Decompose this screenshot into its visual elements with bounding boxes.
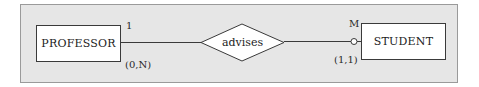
professor-entity-label: PROFESSOR — [41, 37, 115, 50]
optional-participation-circle-icon — [351, 39, 357, 45]
professor-entity: PROFESSOR — [36, 25, 121, 62]
student-participation: (1,1) — [334, 55, 358, 65]
student-cardinality: M — [349, 19, 359, 29]
advises-relationship-label: advises — [222, 37, 263, 48]
professor-participation: (0,N) — [125, 60, 151, 70]
student-entity: STUDENT — [361, 23, 446, 60]
professor-cardinality: 1 — [126, 21, 132, 31]
student-entity-label: STUDENT — [374, 35, 433, 48]
